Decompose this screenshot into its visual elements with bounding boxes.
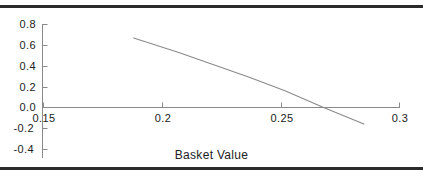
x-axis-title: Basket Value: [0, 148, 423, 162]
x-tick-label-0: 0.15: [22, 112, 66, 124]
x-tick-label-2: 0.25: [260, 112, 304, 124]
y-tick-label-0: 0.8: [2, 18, 36, 30]
y-tick-label-3: 0.2: [2, 81, 36, 93]
y-tick-label-2: 0.4: [2, 60, 36, 72]
y-tick-marks: [43, 25, 48, 150]
x-tick-label-3: 0.3: [378, 112, 422, 124]
y-tick-label-1: 0.6: [2, 39, 36, 51]
x-tick-label-1: 0.2: [141, 112, 185, 124]
x-tick-marks: [44, 103, 400, 108]
chart-figure: 0.8 0.6 0.4 0.2 0.0 -0.2 -0.4 0.15 0.2 0…: [0, 0, 423, 176]
